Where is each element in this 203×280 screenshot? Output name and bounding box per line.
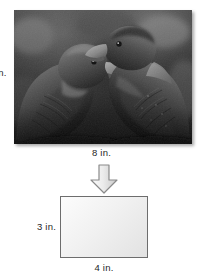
photo-width-label: 8 in. xyxy=(0,148,203,158)
figure-canvas: in. 8 in. 3 in. 4 in. xyxy=(0,0,203,280)
parrots-photo xyxy=(14,10,192,144)
rectangle-height-label: 3 in. xyxy=(16,222,56,232)
down-arrow-icon xyxy=(88,164,120,194)
reduced-rectangle xyxy=(60,196,148,258)
rectangle-width-label: 4 in. xyxy=(60,263,148,273)
photo-height-label: in. xyxy=(0,68,7,78)
